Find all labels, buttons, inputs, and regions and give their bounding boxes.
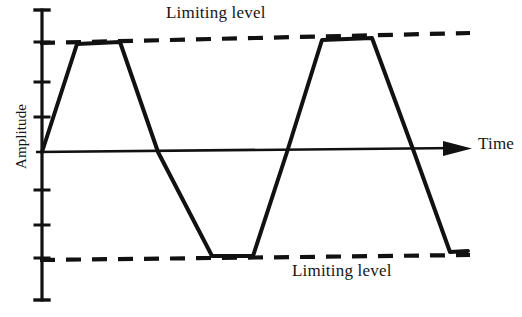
y-axis-title: Amplitude	[13, 91, 30, 183]
upper-limit-label: Limiting level	[166, 3, 266, 23]
lower-limit-label: Limiting level	[292, 261, 392, 281]
clipped-waveform-trace	[42, 38, 468, 256]
x-axis-title: Time	[478, 134, 514, 154]
x-axis-line	[36, 148, 458, 152]
waveform-plot	[0, 0, 522, 317]
figure-container: Amplitude Time Limiting level Limiting l…	[0, 0, 522, 317]
x-axis-arrow-icon	[443, 141, 472, 156]
